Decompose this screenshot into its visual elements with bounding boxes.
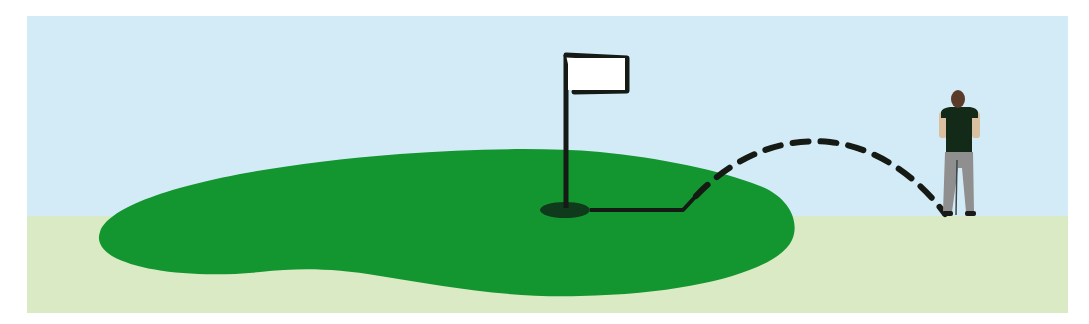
golf-chip-diagram: [0, 0, 1089, 324]
